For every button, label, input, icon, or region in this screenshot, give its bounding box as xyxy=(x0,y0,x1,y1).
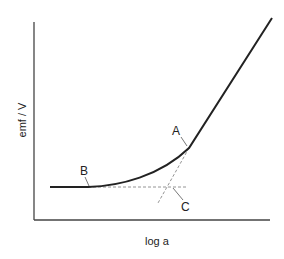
point-label-a: A xyxy=(172,124,180,138)
y-axis-label: emf / V xyxy=(16,102,28,138)
emf-curve xyxy=(50,18,272,187)
leader-line-a xyxy=(181,137,187,146)
leader-line-b xyxy=(85,177,89,186)
leader-line-c xyxy=(173,188,183,200)
x-axis-label: log a xyxy=(145,235,170,247)
point-label-b: B xyxy=(80,164,88,178)
point-label-c: C xyxy=(181,200,190,214)
slope-extrapolation-dashed xyxy=(158,148,189,203)
emf-vs-log-a-diagram: A B C emf / V log a xyxy=(0,0,284,259)
